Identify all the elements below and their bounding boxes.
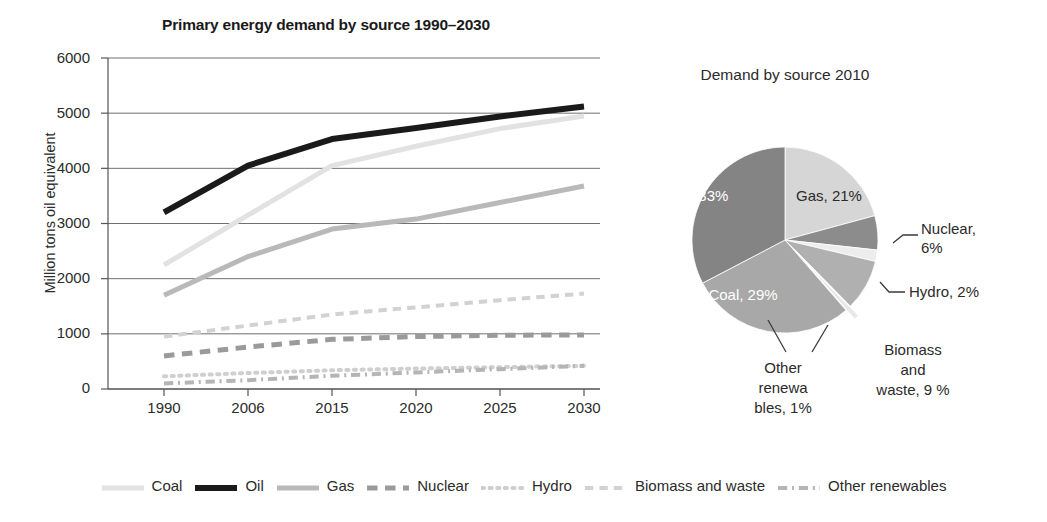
- pie-chart-title: Demand by source 2010: [640, 66, 930, 84]
- x-tick-2006: 2006: [208, 399, 288, 416]
- gridlines: [108, 58, 600, 389]
- hydro-leader-line: [880, 282, 905, 292]
- legend-item-gas: Gas: [276, 477, 355, 494]
- pie-label-nuclear: Nuclear, 6%: [921, 219, 1031, 257]
- legend-swatch-other-renewables: [777, 480, 821, 490]
- legend-swatch-coal: [101, 480, 145, 490]
- x-tick-1990: 1990: [124, 399, 204, 416]
- pie-label-hydro: Hydro, 2%: [909, 283, 1039, 300]
- legend-item-coal: Coal: [101, 477, 183, 494]
- pie-label-oil: Oil, 33%: [652, 187, 748, 204]
- series-line-coal: [164, 116, 584, 265]
- legend-item-biomass-and-waste: Biomass and waste: [584, 477, 765, 494]
- legend-label-nuclear: Nuclear: [417, 477, 469, 494]
- pie-label-other-line2: renewa: [728, 378, 838, 398]
- chart-legend: CoalOilGasNuclearHydroBiomass and wasteO…: [0, 470, 1047, 500]
- pie-slices: [692, 147, 878, 333]
- pie-label-other-renewables: Other renewa bles, 1%: [728, 358, 838, 418]
- legend-item-hydro: Hydro: [481, 477, 572, 494]
- legend-swatch-gas: [276, 480, 320, 490]
- x-tick-2020: 2020: [376, 399, 456, 416]
- pie-label-biomass-line1: Biomass: [848, 340, 978, 360]
- series-lines: [164, 107, 584, 384]
- legend-swatch-biomass-and-waste: [584, 480, 628, 490]
- nuclear-leader-line: [893, 235, 918, 243]
- legend-label-gas: Gas: [327, 477, 355, 494]
- legend-swatch-oil: [194, 480, 238, 490]
- pie-label-biomass: Biomass and waste, 9 %: [848, 340, 978, 400]
- legend-item-other-renewables: Other renewables: [777, 477, 946, 494]
- series-line-nuclear: [164, 335, 584, 356]
- pie-label-other-line1: Other: [728, 358, 838, 378]
- pie-label-coal: Coal, 29%: [690, 286, 796, 303]
- pie-label-other-line3: bles, 1%: [728, 398, 838, 418]
- legend-label-coal: Coal: [152, 477, 183, 494]
- legend-item-nuclear: Nuclear: [366, 477, 469, 494]
- line-plot-area: [0, 0, 620, 400]
- legend-item-oil: Oil: [194, 477, 263, 494]
- series-line-biomass-and-waste: [164, 294, 584, 337]
- pie-label-biomass-line3: waste, 9 %: [848, 380, 978, 400]
- legend-swatch-hydro: [481, 480, 525, 490]
- legend-label-biomass-and-waste: Biomass and waste: [635, 477, 765, 494]
- pie-label-biomass-line2: and: [848, 360, 978, 380]
- legend-label-other-renewables: Other renewables: [828, 477, 946, 494]
- legend-swatch-nuclear: [366, 480, 410, 490]
- biomass-leader-line: [812, 325, 828, 352]
- pie-label-nuclear-line1: Nuclear,: [921, 219, 1031, 238]
- x-tick-2025: 2025: [460, 399, 540, 416]
- x-tick-2015: 2015: [292, 399, 372, 416]
- chart-page: Primary energy demand by source 1990–203…: [0, 0, 1047, 522]
- pie-label-nuclear-line2: 6%: [921, 238, 1031, 257]
- legend-label-oil: Oil: [245, 477, 263, 494]
- pie-label-gas: Gas, 21%: [781, 187, 877, 204]
- legend-label-hydro: Hydro: [532, 477, 572, 494]
